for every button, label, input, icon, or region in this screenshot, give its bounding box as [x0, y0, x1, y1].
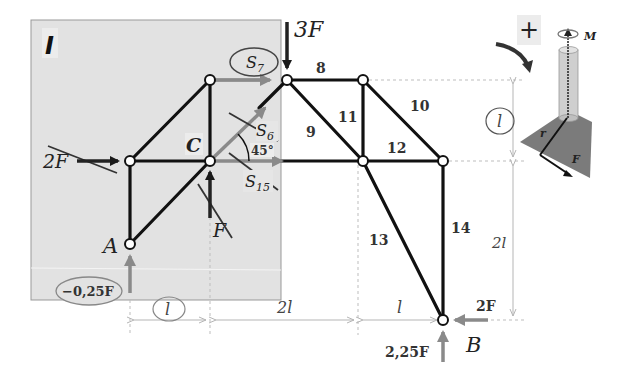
moment-legend: + M r F — [496, 15, 597, 178]
member-9-label: 9 — [306, 124, 316, 140]
moment-label: M — [583, 30, 597, 43]
sign-label: + — [519, 16, 539, 44]
c-load-label: F — [212, 219, 227, 241]
node-top — [282, 75, 292, 85]
dim-h3-label: l — [397, 298, 402, 317]
node-mid-right — [358, 156, 368, 166]
node-c — [205, 156, 215, 166]
left-load-label: 2F — [42, 150, 69, 172]
node-b — [438, 315, 448, 325]
dim-v1-label: l — [497, 112, 502, 131]
dim-h2-label: 2l — [276, 298, 292, 317]
clockwise-arrow-icon — [496, 44, 528, 66]
dim-h1-label: l — [165, 300, 170, 319]
node-c-label: C — [186, 134, 201, 156]
member-14-label: 14 — [451, 220, 471, 236]
dim-v2-label: 2l — [491, 234, 507, 252]
member-11-label: 11 — [338, 109, 357, 125]
base-plate — [520, 110, 592, 178]
member-12-label: 12 — [387, 140, 406, 156]
top-load-label: 3F — [294, 17, 324, 42]
node-a-label: A — [101, 234, 118, 258]
force-label: F — [571, 153, 581, 166]
a-reaction-label: −0,25F — [62, 284, 115, 299]
node-right — [438, 156, 448, 166]
member-10-label: 10 — [410, 98, 430, 114]
section-label: I — [45, 32, 54, 60]
b-vertical-label: 2,25F — [385, 344, 429, 360]
node-left — [125, 156, 135, 166]
node-top-right — [358, 75, 368, 85]
b-horizontal-label: 2F — [476, 298, 496, 314]
node-b-label: B — [465, 333, 481, 357]
node-top-left — [205, 75, 215, 85]
member-13-label: 13 — [369, 232, 388, 248]
member-8-label: 8 — [316, 60, 326, 76]
truss-diagram: I l 2l l l 2l — [0, 0, 626, 378]
node-a — [125, 239, 135, 249]
angle-label: 45° — [251, 144, 274, 158]
